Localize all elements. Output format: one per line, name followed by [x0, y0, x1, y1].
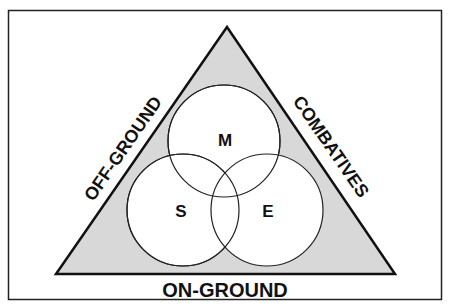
combatives-diagram: M S E OFF-GROUND COMBATIVES ON-GROUND	[0, 0, 450, 307]
circle-label-e: E	[262, 202, 273, 221]
circle-label-m: M	[218, 131, 232, 150]
circle-label-s: S	[175, 202, 186, 221]
side-label-on-ground: ON-GROUND	[162, 279, 288, 301]
